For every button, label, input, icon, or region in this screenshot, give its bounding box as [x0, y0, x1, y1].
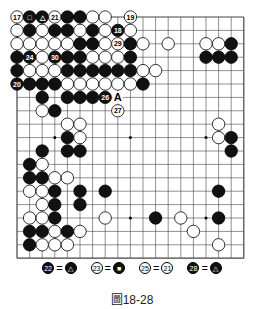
- white-stone: [61, 38, 73, 50]
- white-stone: [212, 38, 224, 50]
- white-stone: [112, 78, 124, 90]
- legend: 22=△23=■25=2128=△: [0, 262, 264, 274]
- black-stone: [225, 51, 237, 63]
- white-stone: [23, 212, 35, 224]
- black-stone: [61, 51, 73, 63]
- stone-icon: 25: [139, 262, 151, 274]
- svg-text:△: △: [39, 14, 46, 22]
- svg-text:19: 19: [127, 14, 135, 21]
- white-stone: [212, 239, 224, 251]
- black-stone: [124, 38, 136, 50]
- black-stone: [61, 91, 73, 103]
- black-stone: [23, 239, 35, 251]
- svg-text:20: 20: [13, 81, 21, 88]
- white-stone: [187, 225, 199, 237]
- black-stone: [99, 185, 111, 197]
- svg-text:29: 29: [114, 40, 122, 47]
- white-stone: [74, 118, 86, 130]
- black-stone: [86, 38, 98, 50]
- black-stone: [23, 225, 35, 237]
- white-stone: [36, 105, 48, 117]
- white-stone: [36, 198, 48, 210]
- white-stone: [49, 38, 61, 50]
- black-stone: [61, 225, 73, 237]
- white-stone: [36, 212, 48, 224]
- black-stone: [36, 78, 48, 90]
- black-stone: [74, 145, 86, 157]
- white-stone: [36, 185, 48, 197]
- legend-item: 22=△: [42, 262, 76, 274]
- figure-caption: 圖18-28: [0, 290, 264, 307]
- legend-item: 23=■: [91, 262, 125, 274]
- white-stone: [74, 225, 86, 237]
- white-stone: [36, 24, 48, 36]
- black-stone: [225, 131, 237, 143]
- white-stone: [36, 239, 48, 251]
- stone-icon: △: [65, 262, 77, 274]
- stone-icon: 22: [42, 262, 54, 274]
- black-stone: [23, 24, 35, 36]
- white-stone: [11, 38, 23, 50]
- black-stone: [112, 64, 124, 76]
- white-stone: [149, 64, 161, 76]
- white-stone: [99, 78, 111, 90]
- black-stone: [36, 91, 48, 103]
- svg-text:24: 24: [26, 54, 34, 61]
- white-stone: [112, 51, 124, 63]
- white-stone: [137, 38, 149, 50]
- white-stone: [61, 78, 73, 90]
- stone-icon: 21: [161, 262, 173, 274]
- black-stone: [49, 78, 61, 90]
- white-stone: [11, 24, 23, 36]
- svg-text:27: 27: [114, 107, 122, 114]
- black-stone: [137, 78, 149, 90]
- white-stone: [175, 212, 187, 224]
- black-stone: [23, 78, 35, 90]
- svg-text:26: 26: [101, 94, 109, 101]
- black-stone: [61, 24, 73, 36]
- white-stone: [200, 38, 212, 50]
- white-stone: [61, 172, 73, 184]
- black-stone: [49, 212, 61, 224]
- black-stone: [11, 64, 23, 76]
- black-stone: [74, 198, 86, 210]
- black-stone: [124, 51, 136, 63]
- white-stone: [212, 118, 224, 130]
- black-stone: [36, 145, 48, 157]
- white-stone: [86, 51, 98, 63]
- white-stone: [36, 38, 48, 50]
- black-stone: [49, 105, 61, 117]
- white-stone: [86, 78, 98, 90]
- black-stone: [74, 11, 86, 23]
- black-stone: [99, 64, 111, 76]
- black-stone: [212, 51, 224, 63]
- black-stone: [23, 158, 35, 170]
- white-stone: [74, 78, 86, 90]
- white-stone: [23, 38, 35, 50]
- black-stone: [74, 51, 86, 63]
- white-stone: [137, 64, 149, 76]
- black-stone: [124, 64, 136, 76]
- black-stone: [61, 145, 73, 157]
- go-board: 17□△211918292430202627A: [0, 0, 264, 270]
- black-stone: [225, 145, 237, 157]
- svg-text:18: 18: [114, 27, 122, 34]
- svg-text:17: 17: [13, 14, 21, 21]
- white-stone: [99, 212, 111, 224]
- black-stone: [74, 91, 86, 103]
- white-stone: [99, 11, 111, 23]
- svg-text:30: 30: [51, 54, 59, 61]
- black-stone: [86, 64, 98, 76]
- black-stone: [74, 64, 86, 76]
- black-stone: [61, 64, 73, 76]
- white-stone: [49, 239, 61, 251]
- black-stone: [212, 185, 224, 197]
- black-stone: [200, 51, 212, 63]
- black-stone: [74, 38, 86, 50]
- white-stone: [124, 78, 136, 90]
- svg-text:A: A: [114, 91, 122, 103]
- white-stone: [124, 24, 136, 36]
- svg-text:21: 21: [51, 14, 59, 21]
- stone-icon: 28: [187, 262, 199, 274]
- black-stone: [61, 11, 73, 23]
